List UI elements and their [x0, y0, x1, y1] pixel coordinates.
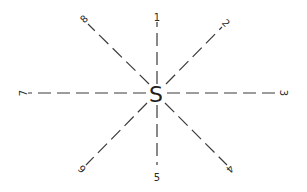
- ray-northeast-dashed-line: [166, 27, 222, 84]
- ray-southwest-dashed-line: [86, 103, 147, 165]
- ray-label-8: 8: [78, 13, 90, 25]
- ray-label-4: 4: [224, 163, 236, 175]
- ray-northwest-dashed-line: [88, 24, 149, 84]
- ray-label-1: 1: [154, 12, 160, 23]
- radial-direction-diagram: 12345678 S: [0, 0, 307, 192]
- ray-label-7: 7: [18, 90, 29, 96]
- center-label-s: S: [149, 82, 163, 107]
- ray-southeast-dashed-line: [165, 103, 227, 165]
- ray-label-5: 5: [154, 172, 160, 183]
- ray-label-3: 3: [278, 90, 289, 96]
